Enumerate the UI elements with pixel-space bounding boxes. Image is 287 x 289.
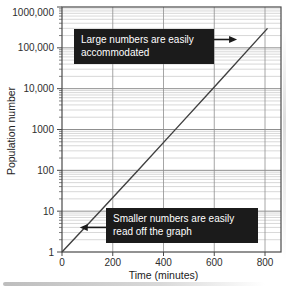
annotation-large-numbers: Large numbers are easily accommodated bbox=[74, 29, 214, 64]
annotation-arrowhead bbox=[80, 224, 88, 231]
page-shadow-right bbox=[283, 30, 286, 260]
x-tick-label: 0 bbox=[59, 257, 65, 268]
x-axis-title: Time (minutes) bbox=[62, 269, 265, 281]
annotation-arrowhead bbox=[229, 36, 237, 43]
annotation-small-numbers-line2: read off the graph bbox=[113, 225, 252, 238]
annotation-small-numbers: Smaller numbers are easily read off the … bbox=[106, 208, 258, 243]
annotation-large-numbers-line1: Large numbers are easily bbox=[81, 33, 208, 46]
x-tick-label: 800 bbox=[257, 257, 274, 268]
y-tick-label: 10 bbox=[43, 206, 55, 217]
y-tick-label: 1000 bbox=[32, 124, 55, 135]
y-tick-label: 100,000 bbox=[18, 42, 55, 53]
x-tick-label: 400 bbox=[155, 257, 172, 268]
y-tick-label: 100 bbox=[37, 165, 54, 176]
semilog-growth-chart-figure: 110100100010,000100,0001000,000020040060… bbox=[0, 0, 287, 289]
x-tick-label: 200 bbox=[104, 257, 121, 268]
y-tick-label: 10,000 bbox=[23, 83, 54, 94]
annotation-large-numbers-line2: accommodated bbox=[81, 46, 208, 59]
y-axis-title: Population number bbox=[5, 87, 17, 175]
x-tick-label: 600 bbox=[206, 257, 223, 268]
y-tick-label: 1 bbox=[48, 247, 54, 258]
page-shadow-bottom bbox=[3, 282, 265, 286]
y-tick-label: 1000,000 bbox=[12, 7, 54, 18]
annotation-small-numbers-line1: Smaller numbers are easily bbox=[113, 212, 252, 225]
